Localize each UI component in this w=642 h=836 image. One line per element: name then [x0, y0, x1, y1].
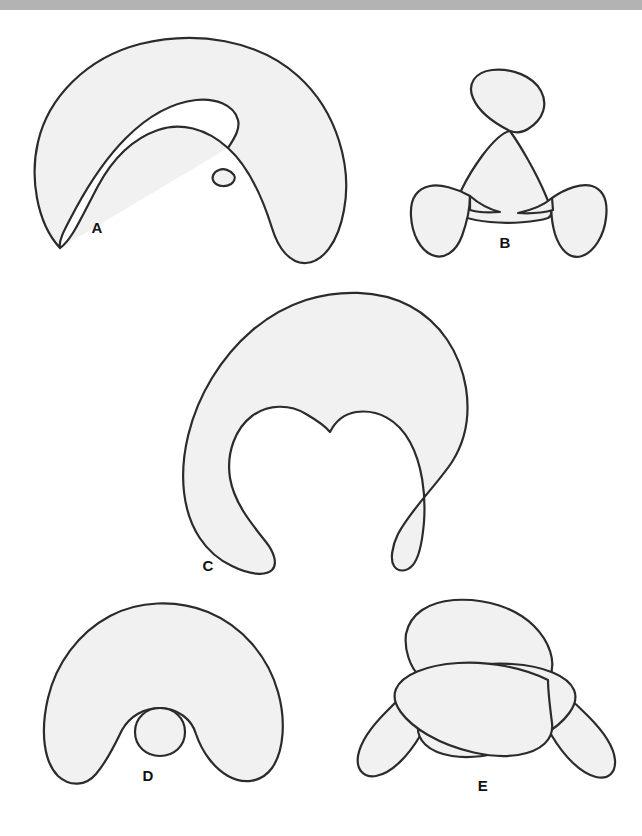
- shape-b-group: B: [411, 70, 607, 257]
- shape-c-group: C: [183, 293, 467, 574]
- figure-canvas: A B C D E: [0, 0, 642, 836]
- shape-a-curve: [35, 38, 346, 263]
- shape-b-left-lobe: [411, 185, 470, 256]
- shape-c-label: C: [202, 557, 213, 574]
- shape-a-inner-loop: [213, 169, 235, 186]
- shape-b-right-lobe: [551, 185, 606, 257]
- shape-d-circle: [135, 708, 185, 756]
- shape-e-group: E: [358, 600, 615, 794]
- figure-page: A B C D E: [0, 0, 642, 836]
- shape-b-curve: [471, 70, 544, 133]
- shape-d-label: D: [142, 767, 153, 784]
- shape-b-label: B: [499, 234, 510, 251]
- shape-a-group: A: [35, 38, 346, 263]
- shape-d-group: D: [44, 603, 283, 784]
- shape-e-lens-right: [395, 663, 553, 756]
- shape-a-label: A: [91, 219, 102, 236]
- shape-c-curve: [183, 293, 467, 574]
- shape-e-label: E: [478, 777, 488, 794]
